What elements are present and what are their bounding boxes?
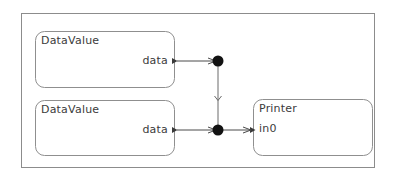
node-title-datavalue-2: DataValue	[41, 104, 99, 116]
node-title-printer: Printer	[259, 103, 297, 115]
port-label-printer-in0: in0	[259, 123, 277, 135]
junction-bottom[interactable]	[213, 125, 224, 136]
port-label-datavalue-1-data: data	[110, 55, 168, 67]
diagram-canvas[interactable]: DataValue data DataValue data Printer in…	[0, 0, 410, 184]
diagram-graphics	[0, 0, 410, 184]
junction-top[interactable]	[213, 56, 224, 67]
port-label-datavalue-2-data: data	[110, 124, 168, 136]
node-title-datavalue-1: DataValue	[41, 35, 99, 47]
